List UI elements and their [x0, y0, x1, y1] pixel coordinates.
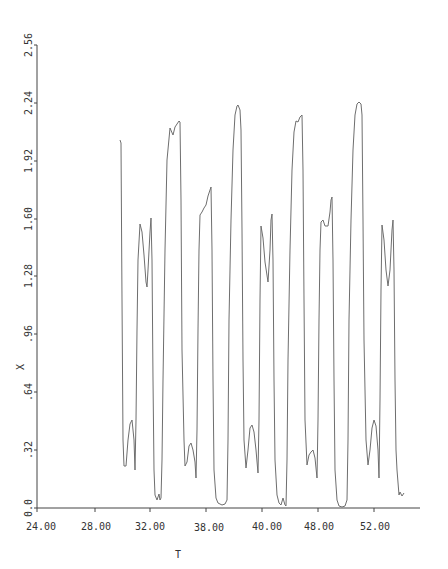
x-tick-label: 32.00	[135, 521, 165, 532]
x-ticks	[37, 508, 374, 512]
y-axis-title: X	[15, 364, 26, 370]
y-tick-label: 1.28	[23, 264, 34, 288]
x-tick-label: 24.00	[26, 521, 56, 532]
y-tick-label: .32	[23, 441, 34, 459]
x-axis-title: T	[175, 549, 181, 560]
x-tick-label: 52.00	[360, 521, 390, 532]
y-tick-labels: 0.0 .32 .64 .96 1.28 1.60 1.92 2.24 2.56	[23, 33, 34, 517]
y-tick-label: 0.0	[23, 499, 34, 517]
x-tick-label: 28.00	[81, 521, 111, 532]
y-tick-label: 2.24	[23, 91, 34, 115]
y-tick-label: .64	[23, 383, 34, 401]
y-tick-label: 1.92	[23, 149, 34, 173]
y-tick-label: .96	[23, 325, 34, 343]
x-tick-labels: 24.00 28.00 32.00 38.00 40.00 48.00 52.0…	[26, 521, 390, 533]
chart-canvas: 0.0 .32 .64 .96 1.28 1.60 1.92 2.24 2.56…	[0, 0, 448, 569]
x-tick-label: 38.00	[194, 522, 224, 533]
y-tick-label: 2.56	[23, 33, 34, 57]
y-tick-label: 1.60	[23, 207, 34, 231]
x-tick-label: 48.00	[304, 521, 334, 532]
data-series-line	[120, 102, 404, 507]
x-tick-label: 40.00	[252, 521, 282, 532]
